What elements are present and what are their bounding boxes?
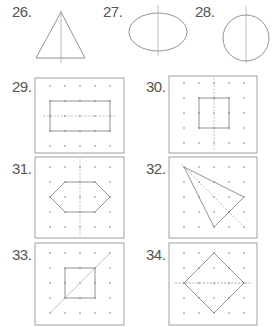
figures-canvas xyxy=(0,0,275,327)
figure-30-grid xyxy=(169,76,257,153)
figure-32-grid xyxy=(169,157,257,238)
figure-27-ellipse xyxy=(129,5,187,56)
figure-33-grid xyxy=(35,243,124,325)
figure-34-grid xyxy=(169,243,257,325)
figure-28-circle xyxy=(223,6,269,63)
figure-31-grid xyxy=(35,157,124,238)
figure-26-triangle xyxy=(36,10,85,63)
figure-29-grid xyxy=(35,78,124,153)
